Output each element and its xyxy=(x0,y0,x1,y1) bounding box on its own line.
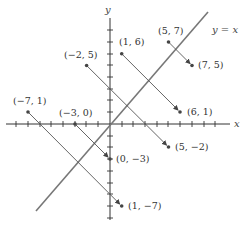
y-axis: y xyxy=(104,4,113,220)
reflection-diagram: x y y = x xyxy=(0,0,246,226)
point-neg2-5 xyxy=(85,64,89,68)
label-7-5: (7, 5) xyxy=(198,59,224,70)
point-5-7 xyxy=(167,40,171,44)
label-neg2-5: (−2, 5) xyxy=(64,49,98,60)
x-axis: x xyxy=(6,118,240,129)
point-0-neg3 xyxy=(108,157,112,161)
x-axis-label: x xyxy=(234,118,240,129)
point-neg7-1 xyxy=(26,110,30,114)
point-7-5 xyxy=(190,64,194,68)
segment-neg7-1 xyxy=(28,112,120,204)
point-1-6 xyxy=(120,52,124,56)
point-6-1 xyxy=(178,110,182,114)
label-neg7-1: (−7, 1) xyxy=(13,95,47,106)
point-neg3-0 xyxy=(73,122,77,126)
segment-neg2-5 xyxy=(87,66,167,146)
y-axis-label: y xyxy=(104,4,111,15)
label-1-6: (1, 6) xyxy=(119,36,145,47)
label-neg3-0: (−3, 0) xyxy=(59,107,93,118)
segment-neg3-0 xyxy=(75,124,108,157)
line-label: y = x xyxy=(211,24,238,35)
label-6-1: (6, 1) xyxy=(187,106,213,117)
point-1-neg7 xyxy=(120,204,124,208)
label-1-neg7: (1, −7) xyxy=(128,200,162,211)
point-5-neg2 xyxy=(167,145,171,149)
label-0-neg3: (0, −3) xyxy=(116,153,150,164)
label-5-neg2: (5, −2) xyxy=(175,141,209,152)
label-5-7: (5, 7) xyxy=(158,25,184,36)
